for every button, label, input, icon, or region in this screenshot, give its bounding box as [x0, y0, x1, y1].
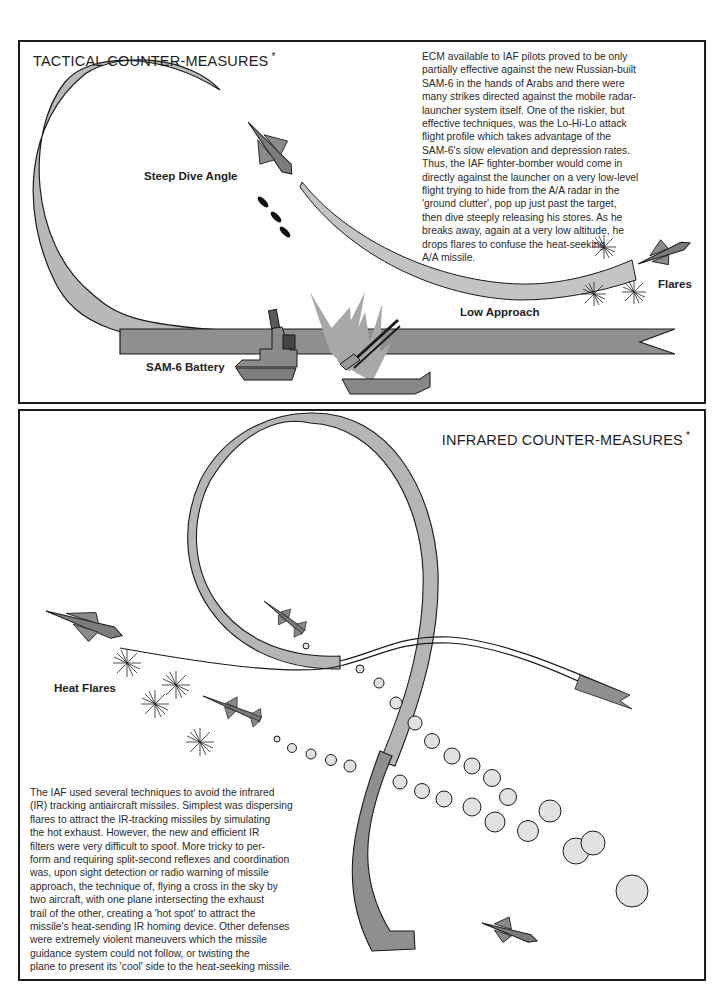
steep-dive-label: Steep Dive Angle — [144, 170, 238, 182]
flares-label: Flares — [658, 278, 692, 290]
missile-icon — [258, 593, 310, 640]
escaping-jet-icon — [633, 230, 695, 275]
tactical-countermeasures-panel: TACTICAL COUNTER-MEASURES* ECM available… — [18, 40, 706, 404]
bombs-icon — [256, 195, 292, 239]
tactical-title: TACTICAL COUNTER-MEASURES* — [33, 51, 276, 69]
heat-flare-burst-icon — [113, 649, 214, 756]
lead-jet-icon — [41, 598, 126, 651]
infrared-title: INFRARED COUNTER-MEASURES* — [442, 430, 690, 448]
escape-jet-icon — [478, 910, 541, 953]
missile-icon — [199, 685, 265, 730]
low-approach-label: Low Approach — [460, 306, 539, 318]
loop-ribbon — [188, 413, 439, 766]
dive-jet-icon — [234, 110, 305, 185]
infrared-countermeasures-panel: INFRARED COUNTER-MEASURES* Heat Flares T… — [18, 409, 706, 981]
low-approach-ribbon — [120, 329, 675, 354]
sam-battery-label: SAM-6 Battery — [146, 361, 225, 373]
heat-flares-label: Heat Flares — [54, 682, 116, 694]
loop-ribbon — [33, 60, 260, 347]
infrared-description: The IAF used several techniques to avoid… — [30, 786, 293, 974]
tactical-description: ECM available to IAF pilots proved to be… — [422, 50, 638, 265]
